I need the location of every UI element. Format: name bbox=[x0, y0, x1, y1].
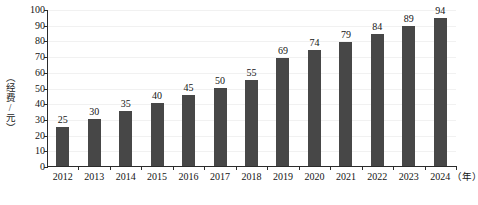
bar-value-label: 84 bbox=[364, 22, 390, 32]
x-axis-tick-label: 2017 bbox=[203, 171, 237, 183]
x-axis-tick-label: 2021 bbox=[329, 171, 363, 183]
y-axis-tick-label: 30 bbox=[18, 115, 45, 125]
x-axis-tick-label: 2015 bbox=[140, 171, 174, 183]
bar[interactable] bbox=[371, 34, 384, 166]
x-axis-tick bbox=[456, 166, 457, 170]
plot-area: 25303540455055697479848994 bbox=[47, 10, 456, 167]
y-axis-tick bbox=[44, 151, 48, 152]
bar[interactable] bbox=[402, 26, 415, 166]
x-axis-tick bbox=[110, 166, 111, 170]
y-axis-tick-label: 10 bbox=[18, 146, 45, 156]
x-axis-tick-label: 2023 bbox=[392, 171, 426, 183]
grid-line bbox=[47, 26, 456, 27]
y-axis-tick-label: 60 bbox=[18, 68, 45, 78]
x-axis-title: （年） bbox=[452, 171, 478, 183]
y-axis-tick bbox=[44, 41, 48, 42]
grid-line bbox=[47, 10, 456, 11]
bar[interactable] bbox=[434, 18, 447, 166]
x-axis-tick bbox=[393, 166, 394, 170]
x-axis-tick-labels: 2012201320142015201620172018201920202021… bbox=[0, 171, 478, 187]
y-axis-tick bbox=[44, 26, 48, 27]
bar-value-label: 94 bbox=[427, 6, 453, 16]
bar[interactable] bbox=[119, 111, 132, 166]
y-axis-title: （经费/元） bbox=[1, 58, 15, 148]
bar[interactable] bbox=[308, 50, 321, 166]
grid-line bbox=[47, 57, 456, 58]
bar-value-label: 74 bbox=[301, 38, 327, 48]
y-axis-tick bbox=[44, 104, 48, 105]
x-axis-tick bbox=[425, 166, 426, 170]
y-axis-tick bbox=[44, 73, 48, 74]
x-axis-tick-label: 2013 bbox=[77, 171, 111, 183]
y-axis-tick-label: 40 bbox=[18, 99, 45, 109]
x-axis-tick bbox=[330, 166, 331, 170]
bar[interactable] bbox=[214, 88, 227, 167]
y-axis-tick-label: 90 bbox=[18, 21, 45, 31]
x-axis-tick-label: 2022 bbox=[360, 171, 394, 183]
y-axis-tick-label: 80 bbox=[18, 36, 45, 46]
y-axis-tick bbox=[44, 89, 48, 90]
x-axis-tick-label: 2016 bbox=[172, 171, 206, 183]
x-axis-tick bbox=[267, 166, 268, 170]
y-axis-tick-label: 50 bbox=[18, 84, 45, 94]
x-axis-tick bbox=[362, 166, 363, 170]
x-axis-tick bbox=[141, 166, 142, 170]
x-axis-line bbox=[47, 166, 456, 167]
x-axis-tick bbox=[299, 166, 300, 170]
bar-value-label: 89 bbox=[396, 14, 422, 24]
y-axis-tick bbox=[44, 136, 48, 137]
bar-value-label: 79 bbox=[333, 30, 359, 40]
x-axis-tick-label: 2014 bbox=[109, 171, 143, 183]
bar[interactable] bbox=[182, 95, 195, 166]
y-axis-tick-label: 70 bbox=[18, 52, 45, 62]
y-axis-tick bbox=[44, 10, 48, 11]
grid-line bbox=[47, 41, 456, 42]
bar-value-label: 35 bbox=[113, 99, 139, 109]
y-axis-tick bbox=[44, 57, 48, 58]
y-axis-tick bbox=[44, 120, 48, 121]
bar[interactable] bbox=[151, 103, 164, 166]
x-axis-tick-label: 2020 bbox=[297, 171, 331, 183]
bar[interactable] bbox=[88, 119, 101, 166]
bar[interactable] bbox=[56, 127, 69, 166]
x-axis-tick-label: 2012 bbox=[46, 171, 80, 183]
x-axis-tick bbox=[236, 166, 237, 170]
y-axis-tick-label: 20 bbox=[18, 131, 45, 141]
bar-value-label: 40 bbox=[144, 91, 170, 101]
bar-value-label: 25 bbox=[50, 115, 76, 125]
x-axis-tick bbox=[204, 166, 205, 170]
bar-value-label: 45 bbox=[176, 83, 202, 93]
bar-value-label: 69 bbox=[270, 46, 296, 56]
bar-value-label: 50 bbox=[207, 76, 233, 86]
bar[interactable] bbox=[245, 80, 258, 166]
bar[interactable] bbox=[276, 58, 289, 166]
x-axis-tick bbox=[78, 166, 79, 170]
y-axis-tick bbox=[44, 167, 48, 168]
bar-value-label: 55 bbox=[239, 68, 265, 78]
x-axis-tick bbox=[173, 166, 174, 170]
y-axis-tick-label: 100 bbox=[18, 5, 45, 15]
x-axis-tick-label: 2018 bbox=[235, 171, 269, 183]
bar-value-label: 30 bbox=[81, 107, 107, 117]
x-axis-tick-label: 2019 bbox=[266, 171, 300, 183]
bar[interactable] bbox=[339, 42, 352, 166]
bar-chart: （经费/元） 0102030405060708090100 2530354045… bbox=[0, 0, 478, 205]
